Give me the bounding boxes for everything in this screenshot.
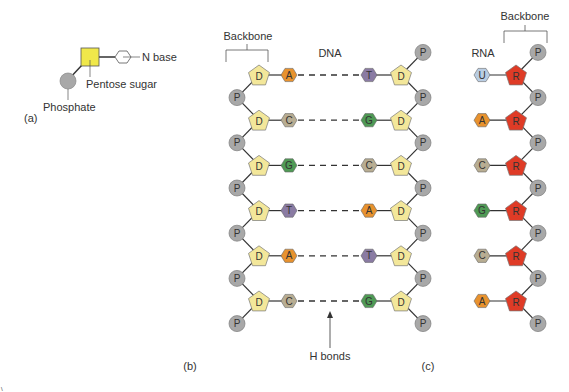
phosphate-node: P [229, 135, 245, 151]
base-glyph: A [286, 70, 293, 81]
panel-a-nucleotide: N base Pentose sugar Phosphate (a) [24, 48, 177, 124]
sugar-glyph: D [397, 71, 404, 82]
sugar-glyph: R [512, 71, 519, 82]
base-glyph: G [285, 160, 293, 171]
rna-backbone-label: Backbone [501, 10, 550, 22]
sugar-glyph: D [255, 71, 262, 82]
dna-backbone-bracket [226, 44, 268, 62]
sugar-glyph: R [512, 297, 519, 308]
phosphate-glyph: P [234, 92, 241, 103]
base-G: G [281, 159, 297, 172]
phosphate-glyph: P [234, 137, 241, 148]
dna-title: DNA [318, 47, 342, 59]
phosphate-node: P [530, 44, 546, 60]
sugar-glyph: R [512, 161, 519, 172]
base-A: A [281, 249, 297, 262]
rna-title: RNA [471, 47, 495, 59]
base-U: U [474, 68, 490, 81]
phosphate-node: P [415, 180, 431, 196]
phosphate-node: P [229, 225, 245, 241]
phosphate-glyph: P [535, 92, 542, 103]
phosphate-glyph: P [420, 137, 427, 148]
sugar-glyph: D [397, 116, 404, 127]
rna-backbone-bracket [504, 25, 547, 43]
base-glyph: G [365, 296, 373, 307]
phosphate-node: P [530, 180, 546, 196]
h-bonds-label: H bonds [310, 350, 351, 362]
phosphate-node: P [415, 316, 431, 332]
sugar-glyph: D [397, 251, 404, 262]
phosphate-node: P [415, 90, 431, 106]
phosphate-glyph: P [535, 137, 542, 148]
phosphate-node: P [229, 316, 245, 332]
sugar-glyph: D [397, 161, 404, 172]
base-glyph: G [365, 115, 373, 126]
sugar-glyph: D [255, 161, 262, 172]
base-G: G [474, 204, 490, 217]
phosphate-glyph: P [420, 228, 427, 239]
phosphate-label: Phosphate [43, 101, 96, 113]
phosphate-glyph: P [535, 273, 542, 284]
phosphate-glyph: P [420, 318, 427, 329]
phosphate-glyph: P [420, 92, 427, 103]
phosphate-node: P [530, 135, 546, 151]
phosphate-glyph: P [234, 273, 241, 284]
dna-backbone-label: Backbone [224, 30, 273, 42]
base-T: T [281, 204, 297, 217]
corner-mark: \ [1, 386, 3, 392]
base-glyph: A [479, 115, 486, 126]
phosphate-glyph: P [535, 47, 542, 58]
base-glyph: C [285, 115, 292, 126]
base-C: C [474, 249, 490, 262]
sugar-glyph: D [255, 251, 262, 262]
base-A: A [474, 114, 490, 127]
phosphate-node: P [415, 135, 431, 151]
base-glyph: T [286, 205, 292, 216]
phosphate-node: P [530, 316, 546, 332]
base-glyph: C [365, 160, 372, 171]
phosphate-node: P [415, 44, 431, 60]
base-T: T [361, 249, 377, 262]
n-base-label: N base [142, 51, 177, 63]
base-glyph: T [366, 70, 372, 81]
phosphate-glyph: P [420, 183, 427, 194]
panel-b-labels: Backbone DNA H bonds (b) [183, 30, 351, 372]
phosphate-node: P [530, 90, 546, 106]
base-A: A [281, 68, 297, 81]
phosphate-glyph: P [234, 318, 241, 329]
phosphate-circle [60, 73, 76, 89]
phosphate-node: P [229, 90, 245, 106]
panel-a-label: (a) [24, 112, 37, 124]
sugar-glyph: D [255, 297, 262, 308]
phosphate-glyph: P [535, 318, 542, 329]
phosphate-glyph: P [535, 183, 542, 194]
base-A: A [361, 204, 377, 217]
phosphate-glyph: P [234, 228, 241, 239]
phosphate-node: P [415, 270, 431, 286]
base-T: T [361, 68, 377, 81]
phosphate-glyph: P [535, 228, 542, 239]
base-C: C [361, 159, 377, 172]
h-bonds-arrow-icon [327, 311, 333, 318]
base-glyph: U [478, 70, 485, 81]
base-glyph: A [286, 250, 293, 261]
sugar-glyph: R [512, 116, 519, 127]
phosphate-glyph: P [420, 47, 427, 58]
base-glyph: C [285, 296, 292, 307]
sugar-glyph: R [512, 251, 519, 262]
base-glyph: G [478, 205, 486, 216]
base-glyph: C [478, 160, 485, 171]
sugar-glyph: R [512, 206, 519, 217]
phosphate-node: P [229, 270, 245, 286]
base-G: G [361, 294, 377, 307]
sugar-node: D [249, 65, 270, 85]
base-C: C [474, 159, 490, 172]
sugar-glyph: D [255, 206, 262, 217]
base-C: C [281, 114, 297, 127]
pentose-sugar-label: Pentose sugar [86, 78, 157, 90]
phosphate-node: P [415, 225, 431, 241]
base-glyph: C [478, 250, 485, 261]
base-glyph: T [366, 250, 372, 261]
nucleic-acid-diagram: N base Pentose sugar Phosphate (a) Backb… [0, 0, 569, 392]
base-glyph: A [479, 296, 486, 307]
